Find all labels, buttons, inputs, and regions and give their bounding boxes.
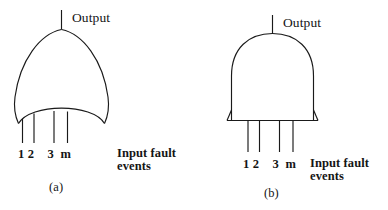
gate-b-left-flare [227, 110, 232, 121]
gate-a-left-edge [14, 30, 61, 124]
gate-b-annotation-line2: events [310, 170, 344, 184]
gate-a-bottom-arc [19, 108, 105, 123]
gate-a-input-labels: 1 2 3 m [18, 147, 71, 162]
gate-b-and-symbol [227, 15, 318, 152]
gate-b-dome-edge [232, 34, 314, 121]
gate-a-or-symbol [14, 10, 108, 143]
gate-b-output-label: Output [283, 15, 321, 31]
gate-b-input-labels: 1 2 3 m [243, 157, 296, 172]
figure-canvas: Output 1 2 3 m Input fault events (a) Ou… [0, 0, 388, 210]
gate-b-right-flare [314, 110, 319, 121]
gate-a-output-label: Output [72, 10, 110, 26]
gate-a-annotation-line2: events [117, 160, 151, 174]
gate-a-right-edge [62, 30, 109, 124]
gate-b-caption: (b) [264, 186, 279, 201]
gate-a-caption: (a) [49, 180, 63, 195]
